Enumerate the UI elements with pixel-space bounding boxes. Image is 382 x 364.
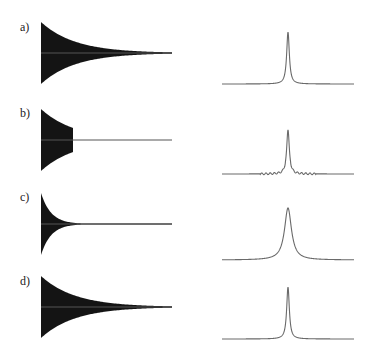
panel-b: b) bbox=[20, 106, 354, 175]
spectrum-d bbox=[222, 287, 354, 339]
panel-label-d: d) bbox=[20, 274, 30, 288]
panel-d: d) bbox=[20, 274, 354, 339]
panel-a: a) bbox=[20, 20, 354, 84]
spectrum-a bbox=[222, 32, 354, 84]
panel-label-a: a) bbox=[20, 20, 29, 34]
fid-spectrum-figure: a) b) c) d) bbox=[0, 0, 382, 364]
panel-label-c: c) bbox=[20, 190, 29, 204]
panel-c: c) bbox=[20, 190, 354, 260]
panel-label-b: b) bbox=[20, 106, 30, 120]
spectrum-b bbox=[222, 130, 354, 175]
spectrum-c bbox=[222, 208, 354, 260]
